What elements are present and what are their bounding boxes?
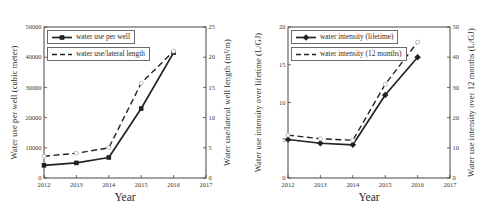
- legend-line-sample: [51, 50, 73, 59]
- right-chart-x-axis-title: Year: [288, 191, 450, 203]
- x-tick-label: 2015: [135, 181, 148, 188]
- right-tick-label: 25: [209, 23, 215, 30]
- data-point-marker: [107, 155, 112, 160]
- legend-line-sample: [295, 50, 317, 59]
- x-tick-label: 2013: [70, 181, 83, 188]
- series-line: [44, 51, 174, 156]
- right-chart-legend: water intensity (lifetime)water intensit…: [291, 30, 407, 64]
- data-point-marker: [139, 106, 144, 111]
- right-tick-label: 5: [209, 144, 212, 151]
- right-tick-label: 15: [209, 84, 215, 91]
- x-tick-label: 2012: [38, 181, 51, 188]
- legend-label: water intensity (lifetime): [320, 32, 393, 41]
- data-point-marker: [416, 40, 420, 44]
- right-chart: 2012201320142015201620170510152001020304…: [244, 0, 487, 211]
- right-tick-label: 10: [209, 114, 215, 121]
- left-chart-x-axis-title: Year: [44, 191, 206, 203]
- series-line: [288, 57, 418, 145]
- right-tick-label: 30: [453, 84, 459, 91]
- right-chart-left-axis-title: Water use intensity over lifetime (L/GJ): [253, 27, 264, 178]
- x-tick-label: 2012: [282, 181, 295, 188]
- left-chart-left-axis-title: Water use per well (cubic meter): [9, 27, 20, 178]
- legend-item: water intensity (lifetime): [291, 30, 398, 44]
- right-tick-label: 50: [453, 23, 459, 30]
- data-point-marker: [74, 161, 79, 166]
- x-tick-label: 2016: [167, 181, 180, 188]
- data-point-marker: [42, 163, 47, 168]
- data-point-marker: [172, 49, 176, 53]
- right-tick-label: 0: [209, 174, 212, 181]
- data-point-marker: [74, 151, 78, 155]
- left-tick-label: 20: [279, 23, 285, 30]
- x-tick-label: 2014: [102, 181, 116, 188]
- data-point-marker: [318, 137, 322, 141]
- right-tick-label: 40: [453, 53, 459, 60]
- left-tick-label: 10: [279, 99, 285, 106]
- figure-canvas: { "chart_data": [ { "type": "line", "xla…: [0, 0, 487, 211]
- right-tick-label: 0: [453, 174, 456, 181]
- legend-label: water use per well: [76, 32, 130, 41]
- right-tick-label: 10: [453, 144, 459, 151]
- legend-line-sample: [51, 33, 73, 42]
- left-tick-label: 40000: [26, 53, 42, 60]
- legend-item: water intensity (12 months): [291, 47, 407, 61]
- right-tick-label: 20: [453, 114, 459, 121]
- data-point-marker: [139, 81, 143, 85]
- left-tick-label: 10000: [26, 144, 42, 151]
- right-chart-right-axis-title: Water use intensity over 12 months (L/GJ…: [466, 27, 477, 178]
- x-tick-label: 2017: [200, 181, 214, 188]
- legend-item: water use per well: [47, 30, 135, 44]
- data-point-marker: [42, 154, 46, 158]
- x-tick-label: 2013: [314, 181, 327, 188]
- left-tick-label: 20000: [26, 114, 42, 121]
- legend-line-sample: [295, 33, 317, 42]
- data-point-marker: [351, 138, 355, 142]
- x-tick-label: 2014: [346, 181, 360, 188]
- legend-marker: [60, 35, 65, 40]
- left-tick-label: 0: [38, 174, 41, 181]
- right-tick-label: 20: [209, 53, 215, 60]
- data-point-marker: [383, 82, 387, 86]
- left-tick-label: 15: [279, 61, 285, 68]
- left-chart: 2012201320142015201620170100002000030000…: [0, 0, 243, 211]
- legend-label: water intensity (12 months): [320, 49, 402, 58]
- left-tick-label: 5: [282, 136, 285, 143]
- left-tick-label: 50000: [26, 23, 42, 30]
- legend-label: water use/lateral length: [76, 49, 145, 58]
- left-chart-legend: water use per wellwater use/lateral leng…: [47, 30, 150, 64]
- legend-marker: [303, 34, 310, 41]
- x-tick-label: 2016: [411, 181, 424, 188]
- data-point-marker: [107, 146, 111, 150]
- x-tick-label: 2015: [379, 181, 392, 188]
- left-tick-label: 30000: [26, 84, 42, 91]
- left-chart-right-axis-title: Water use/lateral well length (m³/m): [222, 27, 233, 178]
- x-tick-label: 2017: [444, 181, 458, 188]
- left-tick-label: 0: [282, 174, 285, 181]
- data-point-marker: [286, 133, 290, 137]
- legend-item: water use/lateral length: [47, 47, 150, 61]
